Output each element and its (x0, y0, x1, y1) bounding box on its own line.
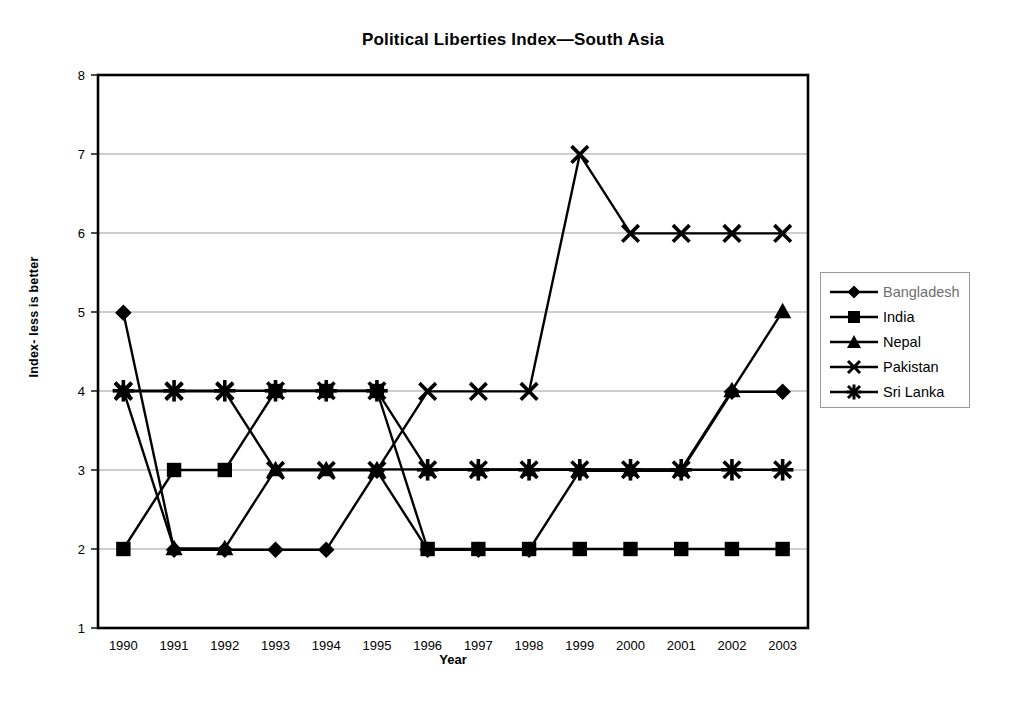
y-tick-label: 1 (78, 621, 85, 636)
data-point (214, 380, 236, 402)
legend-label-sri-lanka: Sri Lanka (883, 384, 944, 400)
data-point (115, 305, 132, 322)
data-point (674, 542, 688, 556)
data-point (772, 459, 794, 481)
data-point (522, 542, 536, 556)
data-point (315, 380, 337, 402)
x-tick-label: 2001 (667, 638, 696, 653)
legend-marker-star (828, 382, 880, 402)
y-tick-label: 3 (78, 463, 85, 478)
data-point (774, 303, 791, 319)
data-point (670, 459, 692, 481)
x-tick-label: 1992 (210, 638, 239, 653)
data-point (721, 459, 743, 481)
legend-label-nepal: Nepal (883, 334, 921, 350)
legend-marker-diamond (828, 282, 880, 302)
data-point (267, 542, 284, 559)
data-point (417, 459, 439, 481)
data-point (218, 463, 232, 477)
y-tick-label: 2 (78, 542, 85, 557)
chart-legend: Bangladesh India Nepal Pakistan Sri Lank… (820, 272, 970, 408)
y-tick-label: 7 (78, 147, 85, 162)
data-point (775, 542, 789, 556)
data-point (318, 542, 335, 559)
x-tick-label: 2002 (717, 638, 746, 653)
series-sri-lanka (113, 380, 794, 481)
x-tick-label: 1996 (413, 638, 442, 653)
series-nepal (115, 303, 792, 556)
plot-frame (98, 75, 808, 628)
data-point (163, 380, 185, 402)
data-point (569, 459, 591, 481)
x-tick-label: 1994 (312, 638, 341, 653)
data-point (113, 380, 135, 402)
legend-marker-square (828, 307, 880, 327)
x-tick-label: 1999 (565, 638, 594, 653)
legend-marker-triangle (828, 332, 880, 352)
data-point (623, 542, 637, 556)
legend-label-pakistan: Pakistan (883, 359, 939, 375)
legend-item-pakistan[interactable]: Pakistan (821, 354, 969, 379)
data-point (573, 542, 587, 556)
x-tick-label: 2000 (616, 638, 645, 653)
data-point (468, 459, 490, 481)
x-tick-label: 2003 (768, 638, 797, 653)
y-tick-label: 6 (78, 226, 85, 241)
series-bangladesh (115, 305, 791, 559)
x-tick-label: 1995 (362, 638, 391, 653)
data-point (518, 459, 540, 481)
data-point (471, 542, 485, 556)
x-tick-label: 1990 (109, 638, 138, 653)
legend-label-bangladesh: Bangladesh (883, 284, 960, 300)
y-tick-label: 8 (78, 68, 85, 83)
legend-marker-cross (828, 357, 880, 377)
legend-item-sri-lanka[interactable]: Sri Lanka (821, 379, 969, 404)
data-point (774, 384, 791, 401)
x-tick-label: 1991 (160, 638, 189, 653)
data-point (620, 459, 642, 481)
chart-container: Political Liberties Index—South Asia Ind… (0, 0, 1026, 705)
y-tick-label: 4 (78, 384, 85, 399)
data-point (265, 380, 287, 402)
legend-item-bangladesh[interactable]: Bangladesh (821, 279, 969, 304)
data-point (420, 542, 434, 556)
legend-label-india: India (883, 309, 914, 325)
data-point (167, 463, 181, 477)
legend-item-india[interactable]: India (821, 304, 969, 329)
legend-item-nepal[interactable]: Nepal (821, 329, 969, 354)
data-point (725, 542, 739, 556)
x-tick-label: 1993 (261, 638, 290, 653)
x-tick-label: 1997 (464, 638, 493, 653)
data-point (116, 542, 130, 556)
data-point (723, 382, 740, 398)
y-tick-label: 5 (78, 305, 85, 320)
data-point (366, 380, 388, 402)
x-tick-label: 1998 (515, 638, 544, 653)
